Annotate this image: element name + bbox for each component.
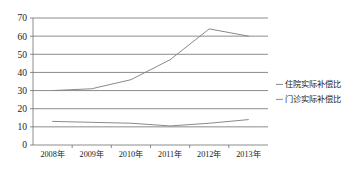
x-axis-tick-label: 2013年 (236, 149, 260, 159)
gridlines-group (33, 18, 268, 145)
y-axis-tick-label: 60 (18, 32, 28, 42)
x-axis-tick-labels: 2008年2009年2010年2011年2012年2013年 (40, 149, 260, 159)
legend-label: 门诊实际补偿比 (285, 94, 341, 104)
y-axis-tick-label: 40 (18, 68, 28, 78)
y-axis-tick-label: 0 (22, 140, 27, 150)
x-axis-tick-label: 2009年 (80, 149, 104, 159)
x-axis-tick-label: 2010年 (119, 149, 143, 159)
chart-canvas: 010203040506070 2008年2009年2010年2011年2012… (0, 0, 362, 173)
y-axis-tick-marks (30, 18, 33, 145)
y-axis-tick-labels: 010203040506070 (18, 13, 28, 150)
legend-label: 住院实际补偿比 (285, 79, 341, 89)
x-axis-tick-label: 2012年 (197, 149, 221, 159)
x-axis-tick-label: 2008年 (40, 149, 64, 159)
y-axis-tick-label: 20 (18, 104, 28, 114)
x-axis-tick-marks (72, 145, 229, 148)
x-axis-tick-label: 2011年 (158, 149, 182, 159)
y-axis-tick-label: 50 (18, 50, 28, 60)
y-axis-tick-label: 70 (18, 13, 28, 23)
line-chart: 010203040506070 2008年2009年2010年2011年2012… (0, 0, 362, 173)
chart-legend: 住院实际补偿比门诊实际补偿比 (276, 79, 341, 104)
data-series-group (53, 29, 249, 126)
series-line-2 (53, 120, 249, 126)
y-axis-tick-label: 30 (18, 86, 28, 96)
y-axis-tick-label: 10 (18, 122, 28, 132)
series-line-1 (53, 29, 249, 91)
